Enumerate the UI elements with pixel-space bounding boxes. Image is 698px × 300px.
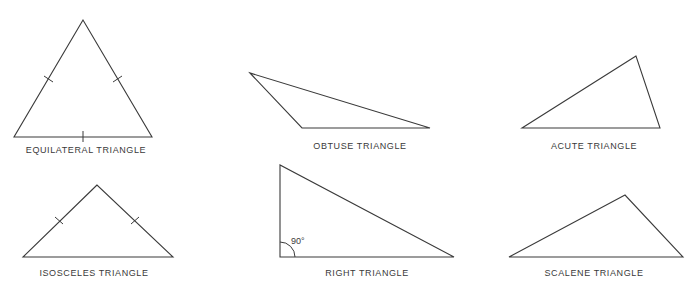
right-angle-label: 90°	[291, 236, 305, 246]
scalene-triangle	[509, 195, 683, 257]
acute-triangle	[522, 56, 660, 128]
obtuse-label: OBTUSE TRIANGLE	[313, 141, 406, 151]
equilateral-triangle	[14, 20, 152, 142]
right-triangle	[280, 165, 454, 257]
equal-side-tick-left	[44, 76, 53, 82]
isosceles-triangle	[23, 185, 173, 257]
isosceles-label: ISOSCELES TRIANGLE	[39, 268, 148, 278]
obtuse-triangle	[250, 73, 430, 128]
right-label: RIGHT TRIANGLE	[325, 268, 409, 278]
equal-side-tick-left	[55, 217, 63, 224]
equilateral-label: EQUILATERAL TRIANGLE	[26, 145, 146, 155]
triangle-types-diagram: EQUILATERAL TRIANGLE OBTUSE TRIANGLE ACU…	[0, 0, 698, 300]
acute-label: ACUTE TRIANGLE	[551, 141, 637, 151]
equal-side-tick-right	[113, 76, 122, 82]
scalene-label: SCALENE TRIANGLE	[545, 268, 644, 278]
